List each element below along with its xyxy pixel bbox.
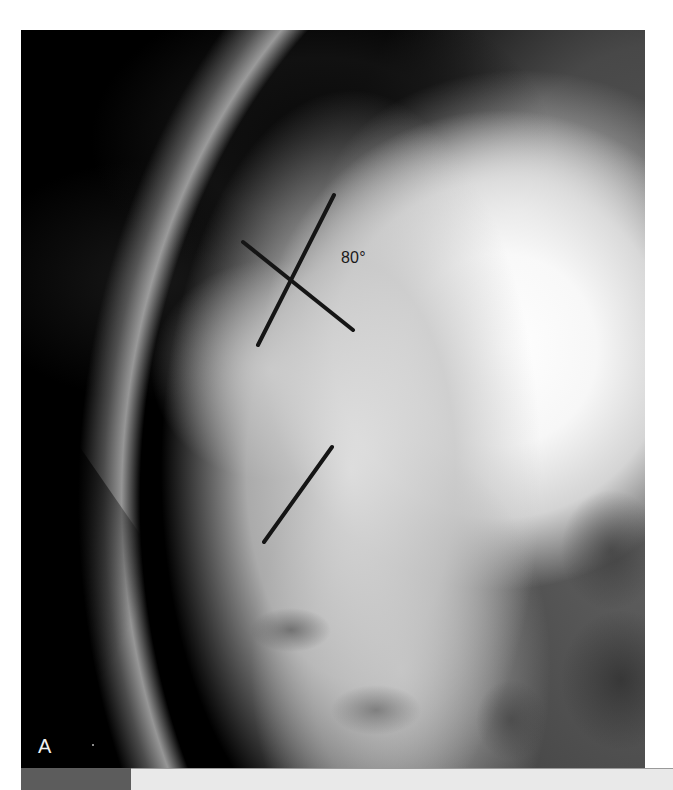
marker-dot xyxy=(92,744,94,746)
footer-color-block xyxy=(21,768,131,790)
footer-bar xyxy=(131,768,673,790)
radiograph-image xyxy=(21,30,645,768)
angle-measurement-label: 80° xyxy=(341,249,366,267)
panel-label: A xyxy=(38,735,51,758)
